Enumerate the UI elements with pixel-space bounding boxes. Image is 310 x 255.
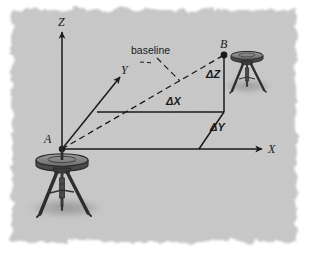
ground-shadow-a [24,197,108,219]
point-b-marker [221,52,228,59]
figure-canvas [0,0,310,255]
survey-baseline-figure: Z Y X A B baseline ΔX ΔY ΔZ [0,0,310,255]
